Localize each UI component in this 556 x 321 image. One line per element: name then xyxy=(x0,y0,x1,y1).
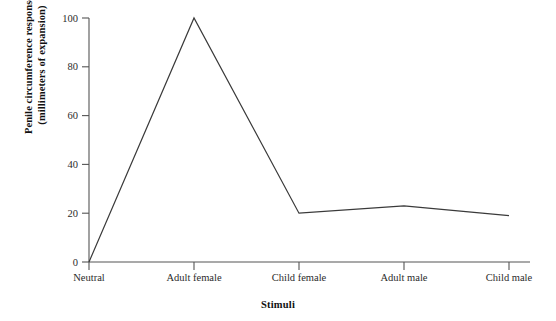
line-chart: Penile circumference response (millimete… xyxy=(0,0,556,321)
data-series-line xyxy=(89,18,509,262)
plot-area xyxy=(0,0,556,321)
